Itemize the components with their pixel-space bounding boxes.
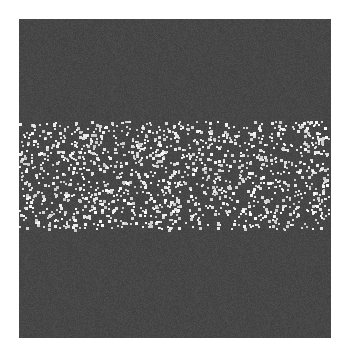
dot-band [19, 19, 331, 338]
dot-field-panel [19, 19, 331, 338]
